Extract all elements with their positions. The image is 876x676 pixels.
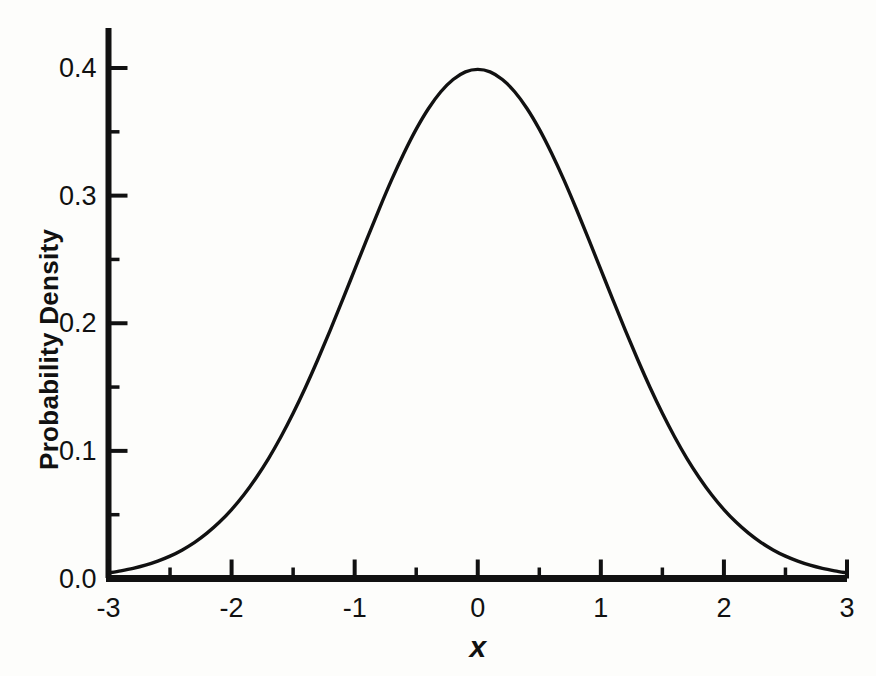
x-tick-label: 2 bbox=[716, 595, 731, 622]
x-tick-label: 3 bbox=[839, 595, 854, 622]
x-tick-label: -3 bbox=[96, 595, 120, 622]
density-curve-path bbox=[109, 69, 848, 572]
x-axis-title: x bbox=[469, 630, 486, 664]
x-tick-label: -1 bbox=[343, 595, 367, 622]
x-tick-label: 1 bbox=[593, 595, 608, 622]
y-tick-label: 0.3 bbox=[59, 182, 97, 209]
y-tick-label: 0.0 bbox=[59, 565, 97, 592]
axes-group bbox=[106, 28, 847, 579]
y-tick-label: 0.4 bbox=[59, 55, 97, 82]
x-tick-label: 0 bbox=[470, 595, 485, 622]
y-axis-title: Probability Density bbox=[34, 229, 65, 470]
normal-distribution-plot bbox=[0, 0, 876, 676]
figure-container: 0.00.10.20.30.4 -3-2-10123 Probability D… bbox=[0, 0, 876, 676]
x-tick-label: -2 bbox=[220, 595, 244, 622]
